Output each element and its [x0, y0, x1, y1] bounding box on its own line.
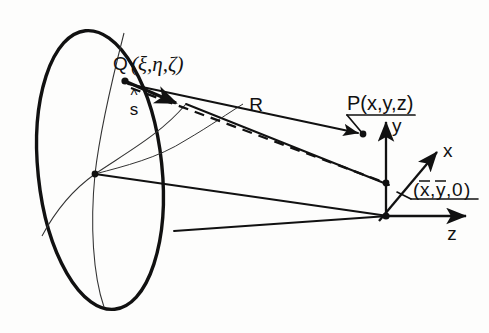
origin-dot: [382, 212, 389, 219]
projected-point-open-paren: (: [413, 179, 420, 200]
field-point-dot: [360, 131, 367, 138]
distance-vector-label: R: [249, 94, 263, 115]
projected-point-xbar: x: [420, 179, 430, 200]
projected-point-close-paren: ): [464, 179, 470, 200]
projected-point-comma-1: ,: [430, 179, 435, 200]
axis-y-label: y: [392, 115, 402, 136]
figure-root: Q (ξ,η,ζ) ^ s R P(x,y,z) ( x , y , 0 ) y…: [0, 0, 489, 333]
axis-z-label: z: [447, 223, 457, 244]
projected-point-comma-2: ,: [446, 179, 451, 200]
axis-x-label: x: [443, 140, 453, 161]
projected-point-ybar: y: [436, 179, 446, 200]
projected-point-label-group: ( x , y , 0 ): [413, 179, 470, 200]
scattering-geometry-diagram: Q (ξ,η,ζ) ^ s R P(x,y,z) ( x , y , 0 ) y…: [0, 0, 489, 333]
source-coords-label: (ξ,η,ζ): [131, 52, 183, 76]
source-point-label: Q: [113, 53, 128, 74]
field-point-label: P(x,y,z): [347, 92, 413, 114]
unit-vector-label: s: [130, 100, 139, 119]
source-point-dot: [121, 77, 128, 84]
cap-center-dot: [92, 171, 99, 178]
projected-point-zero: 0: [452, 179, 463, 200]
